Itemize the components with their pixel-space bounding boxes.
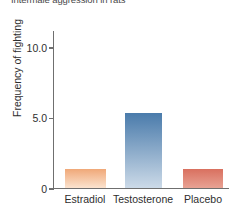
y-tick-mark: [49, 118, 54, 119]
bar-testosterone: [125, 113, 162, 188]
y-axis-line: [53, 31, 54, 189]
y-tick-label: 5.0: [32, 112, 47, 124]
chart-title: Intermale aggression in rats: [11, 0, 125, 5]
x-axis-line: [53, 188, 229, 189]
x-tick-label-estradiol: Estradiol: [65, 193, 106, 205]
x-tick-label-testosterone: Testosterone: [113, 193, 173, 205]
x-tick-label-placebo: Placebo: [184, 193, 222, 205]
y-axis-title: Frequency of fighting: [11, 3, 23, 133]
plot-area: 05.010.0 EstradiolTestosteronePlacebo: [53, 31, 229, 189]
y-tick-label: 0: [41, 183, 47, 195]
y-tick-label: 10.0: [27, 42, 47, 54]
bar-estradiol: [65, 169, 106, 187]
y-tick-mark: [49, 47, 54, 48]
y-tick-mark: [49, 188, 54, 189]
bar-placebo: [183, 169, 223, 187]
bar-chart-figure: Intermale aggression in rats Frequency o…: [0, 0, 232, 211]
